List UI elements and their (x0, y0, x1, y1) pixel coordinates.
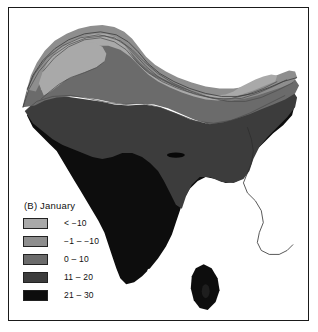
legend-item: 21 – 30 (23, 289, 119, 301)
map-frame: (B) January < −10 −1 – −10 0 – 10 11 – 2… (8, 7, 309, 321)
legend-swatch (23, 290, 48, 301)
legend-title: (B) January (24, 200, 119, 211)
legend-swatch (23, 236, 48, 247)
legend-item: −1 – −10 (23, 235, 119, 247)
legend-item: < −10 (23, 217, 119, 229)
southern-point-marker (147, 269, 150, 272)
lake-marker (167, 152, 185, 157)
map-legend: (B) January < −10 −1 – −10 0 – 10 11 – 2… (23, 200, 119, 307)
legend-label: 11 – 20 (64, 272, 93, 282)
legend-item: 0 – 10 (23, 253, 119, 265)
figure-container: (B) January < −10 −1 – −10 0 – 10 11 – 2… (0, 0, 318, 332)
sri-lanka-highland (202, 284, 210, 298)
legend-label: −1 – −10 (64, 236, 99, 246)
legend-swatch (23, 272, 48, 283)
legend-item: 11 – 20 (23, 271, 119, 283)
legend-label: 0 – 10 (64, 254, 89, 264)
legend-label: < −10 (64, 218, 87, 228)
legend-swatch (23, 218, 48, 229)
legend-swatch (23, 254, 48, 265)
legend-label: 21 – 30 (64, 290, 94, 300)
